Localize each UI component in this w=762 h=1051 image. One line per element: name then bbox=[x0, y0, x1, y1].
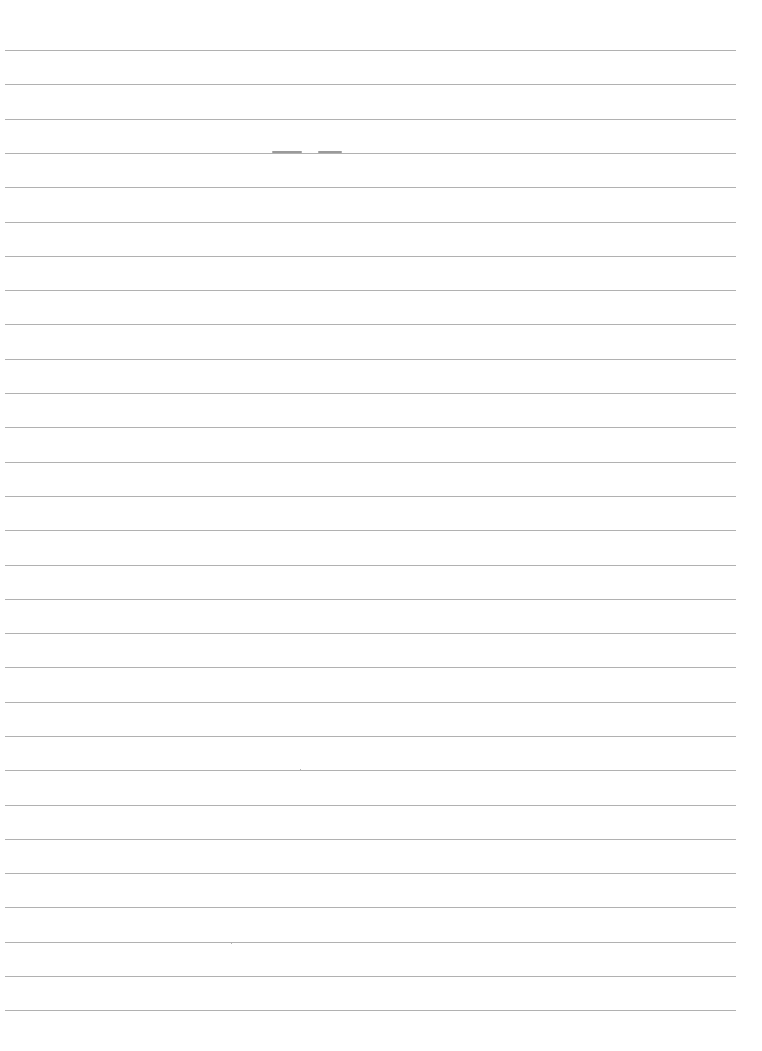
ruled-line bbox=[5, 839, 736, 840]
ruled-line bbox=[5, 496, 736, 497]
ruled-line bbox=[5, 565, 736, 566]
ruled-line bbox=[5, 324, 736, 325]
scan-speck bbox=[231, 943, 232, 944]
ruled-line bbox=[5, 222, 736, 223]
ruled-line bbox=[5, 770, 736, 771]
ruled-line bbox=[5, 976, 736, 977]
ruled-line bbox=[5, 805, 736, 806]
ruled-line bbox=[5, 530, 736, 531]
ruled-line bbox=[5, 667, 736, 668]
ruled-line bbox=[5, 393, 736, 394]
ruled-line bbox=[5, 633, 736, 634]
ruled-line bbox=[5, 702, 736, 703]
ruled-line bbox=[5, 907, 736, 908]
ruled-line bbox=[5, 736, 736, 737]
scan-smudge bbox=[272, 151, 302, 153]
ruled-line bbox=[5, 942, 736, 943]
ruled-line bbox=[5, 119, 736, 120]
ruled-paper-sheet bbox=[0, 0, 762, 1051]
ruled-line bbox=[5, 153, 736, 154]
scan-speck bbox=[300, 769, 301, 770]
ruled-line bbox=[5, 290, 736, 291]
scan-smudge bbox=[318, 151, 342, 153]
ruled-line bbox=[5, 462, 736, 463]
ruled-line bbox=[5, 1010, 736, 1011]
ruled-line bbox=[5, 187, 736, 188]
ruled-line bbox=[5, 599, 736, 600]
ruled-line bbox=[5, 256, 736, 257]
ruled-line bbox=[5, 427, 736, 428]
ruled-line bbox=[5, 50, 736, 51]
ruled-line bbox=[5, 873, 736, 874]
ruled-line bbox=[5, 359, 736, 360]
ruled-line bbox=[5, 84, 736, 85]
